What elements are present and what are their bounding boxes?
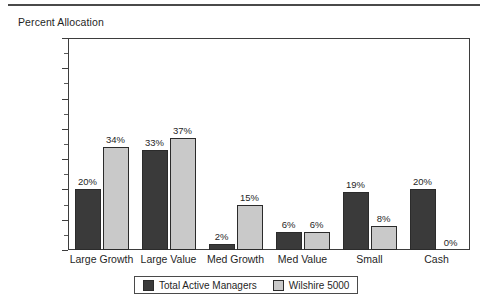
- x-axis-tick-label: Small: [356, 253, 382, 265]
- bar-slot: 6%: [304, 38, 330, 250]
- bar-value-label: 0%: [444, 237, 458, 248]
- x-axis-tick-label: Large Growth: [70, 253, 134, 265]
- bar[interactable]: [371, 226, 397, 250]
- bar[interactable]: [276, 232, 302, 250]
- legend-label: Wilshire 5000: [289, 280, 350, 291]
- bar-value-label: 34%: [106, 134, 125, 145]
- bar[interactable]: [142, 150, 168, 250]
- bar-value-label: 8%: [377, 213, 391, 224]
- x-axis-tick-label: Large Value: [141, 253, 197, 265]
- bar[interactable]: [343, 192, 369, 250]
- bar-slot: 20%: [75, 38, 101, 250]
- bar-value-label: 20%: [78, 176, 97, 187]
- legend-swatch-icon: [143, 280, 154, 291]
- bar[interactable]: [75, 189, 101, 250]
- legend-item[interactable]: Total Active Managers: [143, 280, 257, 291]
- bar-value-label: 6%: [282, 219, 296, 230]
- bars-layer: 20%34%33%37%2%15%6%6%19%8%20%0%: [68, 38, 470, 250]
- bar[interactable]: [170, 138, 196, 250]
- x-axis-category-labels: Large GrowthLarge ValueMed GrowthMed Val…: [68, 253, 470, 269]
- bar[interactable]: [410, 189, 436, 250]
- bar-value-label: 6%: [310, 219, 324, 230]
- bar[interactable]: [103, 147, 129, 250]
- bar[interactable]: [209, 244, 235, 250]
- top-divider-rule: [8, 4, 480, 6]
- bar-slot: 6%: [276, 38, 302, 250]
- bar-slot: 15%: [237, 38, 263, 250]
- bar-slot: 34%: [103, 38, 129, 250]
- bar-slot: 0%: [438, 38, 464, 250]
- bar[interactable]: [304, 232, 330, 250]
- bar-slot: 33%: [142, 38, 168, 250]
- bar-value-label: 19%: [346, 179, 365, 190]
- x-axis-tick-label: Med Growth: [207, 253, 264, 265]
- x-axis-tick-label: Cash: [424, 253, 449, 265]
- legend-swatch-icon: [273, 280, 284, 291]
- bar-slot: 2%: [209, 38, 235, 250]
- legend-item[interactable]: Wilshire 5000: [273, 280, 350, 291]
- bar[interactable]: [237, 205, 263, 250]
- bar-slot: 20%: [410, 38, 436, 250]
- legend-label: Total Active Managers: [159, 280, 257, 291]
- bar-value-label: 37%: [173, 125, 192, 136]
- bar-value-label: 33%: [145, 137, 164, 148]
- y-axis: 0%10%20%30%40%50%60%70%: [0, 0, 68, 307]
- bar-slot: 37%: [170, 38, 196, 250]
- bar-slot: 8%: [371, 38, 397, 250]
- chart-legend: Total Active ManagersWilshire 5000: [134, 276, 358, 294]
- bar-slot: 19%: [343, 38, 369, 250]
- bar-value-label: 2%: [215, 231, 229, 242]
- y-axis-major-tick: [62, 250, 68, 251]
- bar-value-label: 20%: [413, 176, 432, 187]
- x-axis-tick-label: Med Value: [278, 253, 327, 265]
- bar-value-label: 15%: [240, 192, 259, 203]
